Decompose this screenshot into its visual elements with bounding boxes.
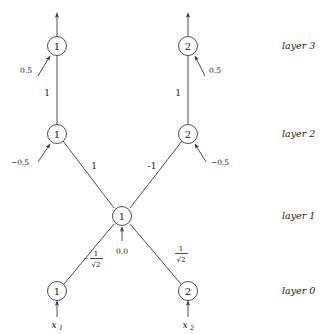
input-subscript-x1: 1	[59, 324, 63, 332]
node-l1n1[interactable]: 1	[113, 207, 132, 226]
network-diagram-canvas: 1 2 1 2 1 1 2	[0, 0, 330, 334]
node-label-l1n1: 1	[119, 211, 125, 222]
bias-label-l2n1: −0.5	[11, 158, 29, 167]
edge-group-layer2-layer3	[57, 55, 188, 125]
bias-arrow-l2n1	[38, 144, 50, 162]
network-diagram-svg: 1 2 1 2 1 1 2	[0, 0, 330, 334]
bias-label-l3n2: 0.5	[209, 66, 221, 75]
layer-label-3: layer 3	[282, 40, 315, 51]
node-label-l3n1: 1	[54, 41, 60, 52]
layer-label-group: layer 3 layer 2 layer 1 layer 0	[282, 40, 315, 296]
node-group: 1 2 1 2 1 1 2	[48, 37, 198, 301]
bias-label-l1n1: 0.0	[116, 247, 128, 256]
node-label-l0n2: 2	[185, 286, 191, 297]
input-name-x1: x	[51, 320, 56, 330]
fraction-denominator-right: √2	[177, 256, 186, 264]
layer-label-0: layer 0	[282, 285, 315, 296]
node-l2n2[interactable]: 2	[179, 125, 198, 144]
bias-arrow-l3n2	[195, 56, 205, 76]
input-label-x1: x 1	[51, 320, 63, 332]
bias-arrow-l2n2	[195, 144, 206, 162]
edge-weight-l1n1-l2n1: 1	[91, 161, 97, 171]
edge-weight-l1n1-l2n2: -1	[148, 161, 157, 171]
layer-label-1: layer 1	[282, 210, 315, 221]
input-label-group: x 1 x 2	[51, 320, 194, 332]
fraction-numerator-left: 1	[94, 250, 98, 258]
fraction-sign-left: −	[83, 255, 89, 263]
edge-l1n1-l2n2	[130, 141, 182, 208]
edge-l0n2-l1n1	[130, 224, 181, 284]
edge-weight-l0n1-l1n1: − 1 √2	[83, 250, 103, 269]
node-label-l2n2: 2	[185, 129, 191, 140]
fraction-numerator-right: 1	[179, 245, 183, 253]
bias-label-l3n1: 0.5	[20, 66, 32, 75]
edge-weight-l2n2-l3n2: 1	[175, 88, 181, 98]
edge-weight-l0n2-l1n1: 1 √2	[175, 245, 188, 264]
input-label-x2: x 2	[182, 320, 194, 332]
node-l3n2[interactable]: 2	[179, 37, 198, 56]
edge-weight-l2n1-l3n1: 1	[44, 88, 50, 98]
node-l0n2[interactable]: 2	[179, 282, 198, 301]
layer-label-2: layer 2	[282, 128, 315, 139]
fraction-label-group: − 1 √2 1 √2	[83, 245, 188, 269]
input-name-x2: x	[182, 320, 187, 330]
input-subscript-x2: 2	[189, 324, 194, 332]
edge-l1n1-l2n1	[63, 141, 114, 208]
edge-l0n1-l1n1	[64, 224, 114, 284]
node-label-l0n1: 1	[54, 286, 60, 297]
node-l0n1[interactable]: 1	[48, 282, 67, 301]
node-label-l2n1: 1	[54, 129, 60, 140]
bias-arrow-l3n1	[38, 56, 50, 76]
node-l2n1[interactable]: 1	[48, 125, 67, 144]
node-label-l3n2: 2	[185, 41, 191, 52]
edge-group-layer1-layer2	[63, 141, 182, 208]
input-arrow-group	[57, 301, 188, 317]
output-arrow-group	[57, 13, 188, 37]
node-l3n1[interactable]: 1	[48, 37, 67, 56]
bias-label-l2n2: −0.5	[211, 158, 229, 167]
fraction-denominator-left: √2	[92, 261, 101, 269]
